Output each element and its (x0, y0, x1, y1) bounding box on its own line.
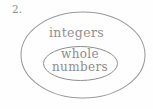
outer-set-label-integers: integers (0, 25, 153, 40)
inner-set-label-line-2: numbers (0, 60, 153, 74)
item-number-label: 2. (12, 3, 22, 15)
nested-set-diagram: 2. integers whole numbers (0, 0, 153, 109)
inner-set-label-line-1: whole (0, 47, 153, 61)
